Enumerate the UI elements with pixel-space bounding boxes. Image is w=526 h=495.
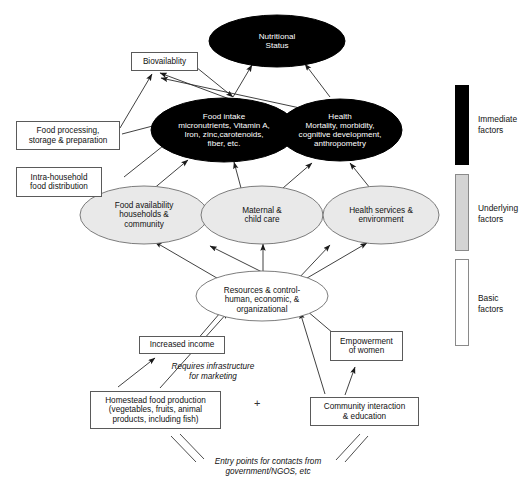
node-intra-household-distribution: Intra-household food distribution	[16, 167, 102, 197]
legend-bar-underlying	[455, 174, 469, 251]
arrow-food-processing-to-bioavailability	[120, 74, 152, 128]
node-increased-income: Increased income	[139, 336, 225, 354]
entry-mark-left-b	[180, 434, 204, 459]
legend-label-underlying: Underlying factors	[478, 203, 524, 224]
arrow-resources-to-food-availability	[155, 242, 222, 281]
node-nutritional-status-label: Nutritional Status	[209, 28, 345, 54]
arrow-health-to-status	[305, 64, 330, 97]
node-resources-control-label: Resources & control- human, economic, & …	[200, 281, 324, 319]
node-homestead-food-production: Homestead food production (vegetables, f…	[90, 391, 221, 429]
node-food-availability-label: Food availability households & community	[82, 196, 206, 234]
node-health-services-label: Health services & environment	[325, 202, 437, 228]
legend-label-basic: Basic factors	[478, 293, 524, 314]
node-food-intake-label: Food intake micronutrients, Vitamin A, I…	[151, 105, 297, 155]
arrow-health-services-to-health	[350, 163, 370, 188]
arrow-maternal-to-health	[283, 163, 312, 188]
arrow-food-availability-to-food-intake	[152, 160, 188, 190]
node-bioavailability: Biovailablity	[131, 52, 198, 71]
node-health-label: Health Mortality, morbidity, cognitive d…	[278, 105, 402, 155]
legend-label-immediate: Immediate factors	[478, 114, 524, 135]
annotation-requires-infrastructure: Requires infrastructure for marketing	[150, 362, 276, 382]
legend-bar-immediate	[455, 85, 469, 165]
nutrition-framework-diagram: Nutritional Status Food intake micronutr…	[0, 0, 526, 495]
arrow-resources-to-health-services	[302, 243, 367, 281]
node-empowerment-of-women: Empowerment of women	[330, 331, 403, 361]
node-maternal-child-care-label: Maternal & child care	[202, 202, 322, 228]
node-community-interaction: Community interaction & education	[310, 397, 419, 426]
node-food-processing: Food processing, storage & preparation	[16, 121, 120, 150]
arrow-community-to-empowerment	[345, 367, 355, 395]
annotation-entry-points: Entry points for contacts from governmen…	[186, 457, 350, 477]
legend-bar-basic	[455, 259, 469, 346]
arrow-community-to-resources	[300, 312, 325, 394]
arrow-maternal-to-food-intake	[234, 162, 241, 188]
diagram-shapes-layer	[0, 0, 526, 495]
annotation-plus-sign: +	[254, 398, 260, 409]
arrow-food-intake-to-status	[233, 65, 252, 97]
